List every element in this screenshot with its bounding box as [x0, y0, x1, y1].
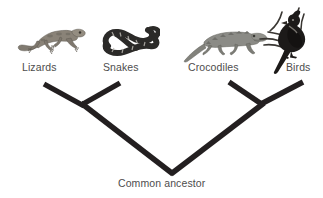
root-label-common-ancestor: Common ancestor — [118, 177, 205, 189]
branch-crocodiles — [229, 82, 263, 105]
cladogram-figure: Lizards Snakes Crocodiles Birds Common a… — [0, 0, 323, 198]
branch-lizards — [44, 84, 84, 106]
taxon-label-crocodiles: Crocodiles — [188, 61, 239, 73]
taxon-label-birds: Birds — [286, 61, 310, 73]
branch-snakes — [83, 83, 120, 104]
lizard-illustration — [16, 14, 88, 60]
taxon-label-snakes: Snakes — [103, 61, 139, 73]
crocodile-illustration — [182, 22, 268, 64]
branch-birds — [261, 82, 303, 104]
taxon-label-lizards: Lizards — [22, 61, 57, 73]
snake-illustration — [98, 22, 160, 60]
branch-right-stem — [171, 103, 264, 174]
branch-left-stem — [81, 103, 173, 174]
